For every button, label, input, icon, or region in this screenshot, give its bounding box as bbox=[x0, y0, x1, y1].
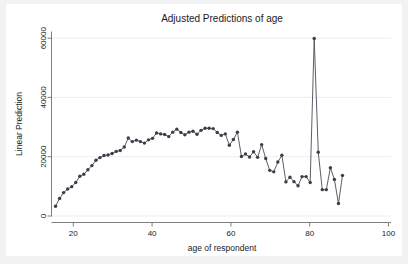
y-axis: 60000 40000 20000 0 Linear Prediction bbox=[14, 27, 52, 219]
data-point bbox=[171, 130, 174, 133]
data-point bbox=[317, 151, 320, 154]
y-tick-label-0: 0 bbox=[39, 213, 48, 218]
series-line-linear-prediction bbox=[56, 39, 343, 207]
data-point bbox=[82, 173, 85, 176]
data-point bbox=[280, 154, 283, 157]
data-point bbox=[260, 143, 263, 146]
data-point bbox=[163, 133, 166, 136]
data-point bbox=[167, 135, 170, 138]
series-group bbox=[54, 37, 344, 208]
y-axis-title: Linear Prediction bbox=[14, 92, 24, 156]
data-point bbox=[288, 175, 291, 178]
data-point bbox=[94, 159, 97, 162]
data-point bbox=[131, 140, 134, 143]
data-point bbox=[341, 174, 344, 177]
data-point bbox=[123, 145, 126, 148]
data-point bbox=[66, 187, 69, 190]
data-point bbox=[175, 127, 178, 130]
y-tick-label-40000: 40000 bbox=[39, 86, 48, 109]
data-point bbox=[110, 152, 113, 155]
data-point bbox=[224, 132, 227, 135]
data-point bbox=[264, 157, 267, 160]
data-point bbox=[216, 131, 219, 134]
x-axis: 20 40 60 80 100 age of respondent bbox=[52, 223, 396, 254]
data-point bbox=[203, 127, 206, 130]
x-tick-label-100: 100 bbox=[382, 229, 396, 238]
data-point bbox=[98, 156, 101, 159]
data-point bbox=[300, 175, 303, 178]
data-point bbox=[78, 175, 81, 178]
data-point bbox=[329, 166, 332, 169]
data-point bbox=[333, 178, 336, 181]
data-point bbox=[284, 180, 287, 183]
data-point bbox=[135, 138, 138, 141]
data-point bbox=[143, 141, 146, 144]
y-tick-label-20000: 20000 bbox=[39, 145, 48, 168]
x-tick-label-40: 40 bbox=[148, 229, 157, 238]
data-point bbox=[159, 132, 162, 135]
data-point bbox=[54, 205, 57, 208]
data-point bbox=[183, 133, 186, 136]
data-point bbox=[228, 143, 231, 146]
data-point bbox=[106, 153, 109, 156]
data-point bbox=[207, 127, 210, 130]
x-tick-label-20: 20 bbox=[69, 229, 78, 238]
data-point bbox=[248, 155, 251, 158]
data-point bbox=[308, 181, 311, 184]
figure-canvas: Adjusted Predictions of age 60000 40000 … bbox=[0, 0, 408, 264]
data-point bbox=[70, 185, 73, 188]
data-point bbox=[119, 149, 122, 152]
data-point bbox=[252, 150, 255, 153]
data-point bbox=[304, 175, 307, 178]
x-axis-title: age of respondent bbox=[188, 243, 257, 253]
data-point bbox=[268, 169, 271, 172]
data-point bbox=[256, 156, 259, 159]
data-point bbox=[321, 188, 324, 191]
data-point bbox=[236, 130, 239, 133]
data-point bbox=[211, 127, 214, 130]
data-point bbox=[272, 170, 275, 173]
data-point bbox=[90, 164, 93, 167]
data-point bbox=[244, 152, 247, 155]
data-point bbox=[232, 138, 235, 141]
data-point bbox=[151, 137, 154, 140]
data-point bbox=[147, 138, 150, 141]
data-point bbox=[179, 131, 182, 134]
data-point bbox=[102, 154, 105, 157]
data-point bbox=[240, 155, 243, 158]
data-point bbox=[187, 130, 190, 133]
data-point bbox=[62, 191, 65, 194]
data-point bbox=[325, 188, 328, 191]
adjusted-predictions-chart: Adjusted Predictions of age 60000 40000 … bbox=[0, 0, 408, 264]
chart-title: Adjusted Predictions of age bbox=[161, 13, 283, 24]
data-point bbox=[337, 202, 340, 205]
data-point bbox=[114, 150, 117, 153]
y-tick-label-60000: 60000 bbox=[39, 27, 48, 50]
data-point bbox=[58, 197, 61, 200]
data-point bbox=[139, 140, 142, 143]
data-point bbox=[195, 133, 198, 136]
data-point bbox=[199, 129, 202, 132]
data-point bbox=[296, 184, 299, 187]
data-point bbox=[127, 136, 130, 139]
data-point bbox=[220, 134, 223, 137]
data-point bbox=[74, 181, 77, 184]
data-point bbox=[276, 160, 279, 163]
x-tick-label-80: 80 bbox=[305, 229, 314, 238]
data-point bbox=[292, 180, 295, 183]
data-point bbox=[86, 168, 89, 171]
x-tick-label-60: 60 bbox=[226, 229, 235, 238]
data-point bbox=[155, 131, 158, 134]
data-point bbox=[191, 130, 194, 133]
series-markers bbox=[54, 37, 344, 208]
data-point bbox=[313, 37, 316, 40]
